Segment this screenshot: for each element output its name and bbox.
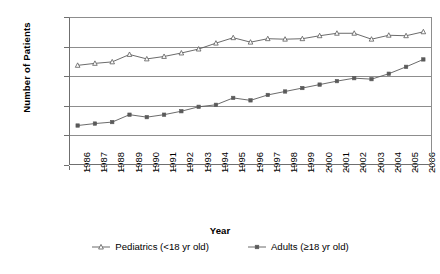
y-axis-title: Number of Patients (21, 0, 32, 143)
gridline (70, 47, 431, 48)
legend-item[interactable]: Pediatrics (<18 yr old) (91, 241, 209, 252)
legend-label: Adults (≥18 yr old) (271, 241, 349, 252)
gridline (70, 135, 431, 136)
plot-area (69, 17, 432, 165)
legend-item[interactable]: Adults (≥18 yr old) (247, 241, 349, 252)
legend-label: Pediatrics (<18 yr old) (115, 241, 209, 252)
gridline (70, 106, 431, 107)
legend-square-marker-icon (247, 242, 267, 252)
gridline (70, 76, 431, 77)
x-axis-title: Year (0, 225, 440, 236)
chart-legend: Pediatrics (<18 yr old)Adults (≥18 yr ol… (0, 241, 440, 252)
legend-triangle-marker-icon (91, 242, 111, 252)
chart-root: Number of Patients 030006000900012,00015… (0, 0, 440, 274)
x-tick-mark (69, 166, 70, 170)
